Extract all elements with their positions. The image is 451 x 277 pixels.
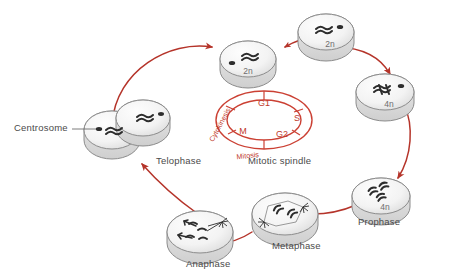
cell-anaphase — [167, 211, 233, 264]
callout-centrosome: Centrosome — [14, 122, 68, 133]
cell-metaphase — [252, 193, 318, 246]
arrow-prophase-to-metaphase — [312, 205, 356, 214]
metaphase-body — [252, 193, 318, 235]
arrow-anaphase-to-telophase — [142, 164, 198, 214]
ploidy-label-b: 2n — [325, 39, 335, 49]
ring-phase-m: M — [239, 126, 247, 136]
stage-label-anaphase: Anaphase — [186, 258, 230, 269]
cell-4n-c: 4n — [356, 74, 414, 121]
diagram-canvas: G1 S G2 M Cytokinesis Mitosis — [0, 0, 451, 277]
centrosome-dot-c — [398, 84, 404, 88]
centrosome-dot-telophase-2 — [158, 112, 164, 116]
cell-interphase-a: 2n — [220, 41, 276, 88]
centrosome-dot-b — [337, 25, 343, 29]
cell-interphase-b: 2n — [298, 14, 354, 61]
cell-cycle-figure: G1 S G2 M Cytokinesis Mitosis — [0, 0, 451, 277]
stage-label-telophase: Telophase — [156, 155, 201, 166]
callout-mitotic-spindle: Mitotic spindle — [248, 155, 311, 166]
cell-telophase — [72, 100, 170, 159]
centrosome-dot-telophase — [96, 127, 102, 131]
ring-phase-g1: G1 — [258, 98, 270, 108]
stage-label-metaphase: Metaphase — [272, 240, 321, 251]
ploidy-label-d: 4n — [380, 202, 390, 212]
anaphase-body — [167, 211, 233, 253]
ploidy-label-c: 4n — [384, 99, 394, 109]
ring-phase-g2: G2 — [276, 129, 288, 139]
ploidy-label-a: 2n — [243, 66, 253, 76]
ring-phase-s: S — [294, 113, 300, 123]
centrosome-dot-a — [229, 61, 235, 65]
cell-cycle-ring: G1 S G2 M Cytokinesis Mitosis — [207, 91, 312, 161]
ring-label-cytokinesis: Cytokinesis — [207, 106, 232, 143]
stage-label-prophase: Prophase — [358, 216, 400, 227]
